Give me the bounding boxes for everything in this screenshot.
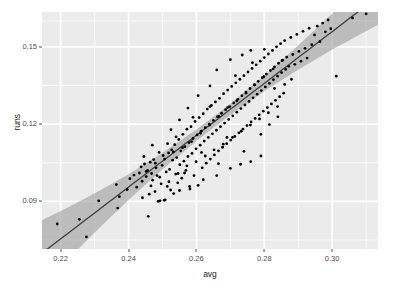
y-tick-mark — [39, 124, 42, 125]
x-tick-label: 0.28 — [257, 255, 272, 263]
y-tick-label: 0.15 — [4, 43, 37, 51]
x-tick-mark — [332, 249, 333, 252]
x-tick-label: 0.22 — [53, 255, 68, 263]
x-tick-mark — [264, 249, 265, 252]
y-tick-mark — [39, 46, 42, 47]
x-tick-mark — [128, 249, 129, 252]
scatter-plot-figure: avg runs 0.090.120.150.220.240.260.280.3… — [0, 0, 398, 295]
x-tick-label: 0.30 — [325, 255, 340, 263]
y-tick-mark — [39, 201, 42, 202]
plot-canvas — [42, 12, 378, 249]
x-tick-mark — [196, 249, 197, 252]
plot-panel — [42, 12, 378, 249]
x-axis-title: avg — [42, 270, 378, 279]
x-tick-label: 0.26 — [189, 255, 204, 263]
y-tick-label: 0.09 — [4, 198, 37, 206]
x-tick-mark — [60, 249, 61, 252]
y-tick-label: 0.12 — [4, 120, 37, 128]
x-tick-label: 0.24 — [121, 255, 136, 263]
